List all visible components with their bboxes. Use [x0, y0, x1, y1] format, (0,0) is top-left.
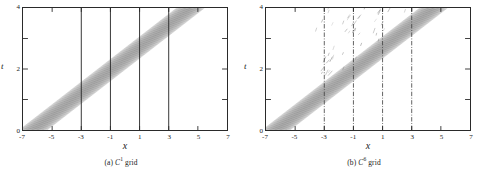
y-axis-label-b: t: [244, 61, 247, 71]
caption-prefix-b: (b): [347, 158, 356, 167]
caption-superscript-a: 1: [120, 156, 123, 162]
x-axis-label-a: x: [22, 140, 228, 151]
y-tick-label: 4: [260, 3, 264, 11]
y-tick-labels-a: 024: [2, 7, 21, 131]
plot-area-b: [266, 8, 470, 130]
y-axis-label-a: t: [1, 61, 4, 71]
contour-band-b: [266, 8, 447, 130]
panel-a: 024 -7-5-3-11357 t x (a) C1 grid: [0, 0, 242, 174]
contour-band-a: [23, 8, 204, 130]
figure-two-panel-xt-contour-plots: 024 -7-5-3-11357 t x (a) C1 grid 024 -7-…: [0, 0, 485, 174]
plot-frame-a: [22, 7, 228, 131]
y-tick-label: 2: [260, 65, 264, 73]
y-tick-label: 2: [17, 65, 21, 73]
caption-suffix-b: grid: [368, 158, 380, 167]
panel-b: 024 -7-5-3-11357 t x (b) C6 grid: [243, 0, 485, 174]
panel-caption-b: (b) C6 grid: [243, 156, 485, 167]
caption-superscript-b: 6: [363, 156, 366, 162]
y-tick-label: 4: [17, 3, 21, 11]
caption-prefix-a: (a): [104, 158, 113, 167]
panel-caption-a: (a) C1 grid: [0, 156, 242, 167]
x-axis-label-b: x: [265, 140, 471, 151]
caption-suffix-a: grid: [125, 158, 137, 167]
plot-frame-b: [265, 7, 471, 131]
plot-area-a: [23, 8, 227, 130]
y-tick-labels-b: 024: [245, 7, 264, 131]
